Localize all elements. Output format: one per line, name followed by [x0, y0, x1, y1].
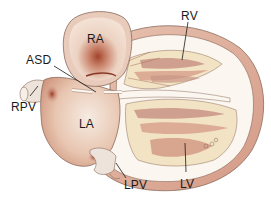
label-lv: LV: [180, 178, 194, 190]
label-lpv: LPV: [124, 179, 147, 191]
label-rv: RV: [181, 10, 198, 22]
label-rpv: RPV: [11, 101, 36, 113]
la-shadow: [45, 85, 59, 103]
heart-illustration: [0, 0, 271, 197]
label-asd: ASD: [26, 54, 51, 66]
left-ventricle: [126, 99, 238, 166]
label-ra: RA: [87, 33, 104, 45]
right-atrium: [63, 12, 132, 87]
heart-diagram: RA RV ASD RPV LA LPV LV: [0, 0, 271, 197]
label-la: LA: [79, 118, 94, 130]
